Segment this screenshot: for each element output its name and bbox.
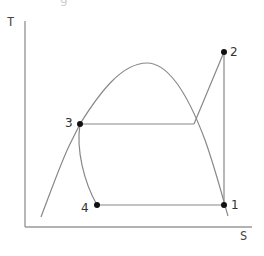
saturation-dome	[41, 63, 228, 217]
state-point-2	[221, 49, 227, 55]
y-axis-label: T	[7, 15, 14, 29]
ts-diagram: g T S 1 2 3 4	[0, 0, 264, 256]
point-label-1: 1	[231, 198, 239, 212]
process-3-4	[79, 124, 97, 205]
state-point-3	[77, 121, 83, 127]
process-2-desuperheat	[194, 52, 224, 124]
state-point-4	[94, 202, 100, 208]
state-point-1	[221, 202, 227, 208]
title-fragment: g	[60, 0, 68, 6]
point-label-2: 2	[230, 45, 238, 59]
point-label-3: 3	[65, 116, 73, 130]
point-label-4: 4	[81, 201, 89, 215]
x-axis-label: S	[240, 229, 247, 243]
